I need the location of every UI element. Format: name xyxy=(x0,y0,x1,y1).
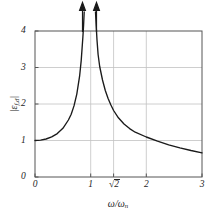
y-label-bar-right: | xyxy=(8,96,19,99)
y-axis-label: |εf,d| xyxy=(9,96,20,112)
x-label-subscript-n: n xyxy=(125,202,128,209)
x-tick-label-1: 1 xyxy=(88,180,93,190)
x-tick-marks xyxy=(35,174,202,178)
y-label-epsilon: ε xyxy=(8,106,19,110)
x-tick-label-0: 0 xyxy=(33,180,38,190)
x-axis-label: ω/ωn xyxy=(108,199,128,210)
y-label-bar-left: | xyxy=(8,109,19,112)
asymptote-arrow-right xyxy=(94,3,100,33)
x-tick-label-3: 3 xyxy=(200,180,205,190)
curve-right-branch xyxy=(96,12,203,153)
y-tick-marks xyxy=(35,31,39,177)
y-tick-label-4: 4 xyxy=(21,26,26,36)
x-label-omega: ω xyxy=(108,198,115,209)
x-label-omega-n: ω xyxy=(118,198,125,209)
sqrt-radicand: 2 xyxy=(114,179,120,190)
sqrt-group: √2 xyxy=(108,179,120,190)
chart-figure: 0 1 2 3 4 0 1 2 3 √2 |εf,d| ω/ωn xyxy=(0,0,214,218)
y-tick-label-1: 1 xyxy=(21,136,26,146)
x-tick-label-2: 2 xyxy=(144,180,149,190)
y-tick-label-0: 0 xyxy=(21,172,26,182)
gridlines-horizontal xyxy=(35,68,202,141)
asymptote-arrows xyxy=(80,3,100,33)
y-tick-label-3: 3 xyxy=(21,63,26,73)
x-tick-label-sqrt2: √2 xyxy=(108,179,120,190)
y-tick-label-2: 2 xyxy=(21,99,26,109)
y-label-subscript: f,d xyxy=(13,99,20,106)
